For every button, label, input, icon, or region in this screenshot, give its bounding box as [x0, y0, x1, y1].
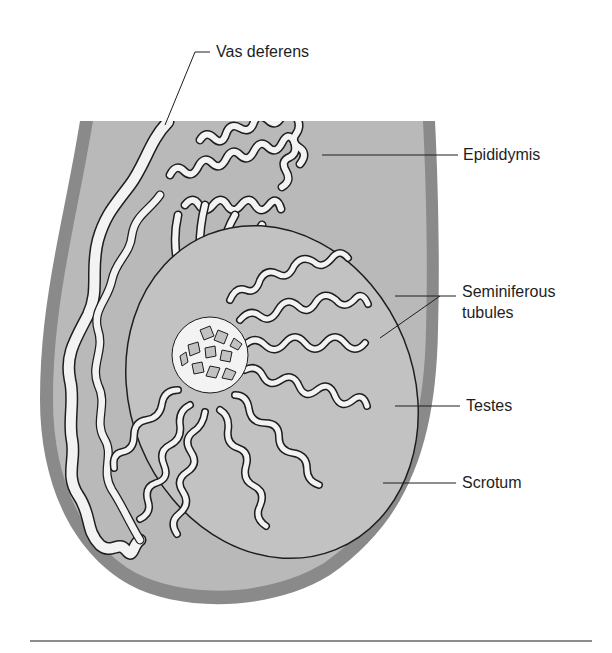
label-testes: Testes [466, 396, 512, 416]
bottom-divider [30, 640, 592, 642]
label-seminiferous-line1: Seminiferous [462, 282, 555, 302]
rete-testis [172, 317, 248, 393]
testis-diagram [0, 0, 612, 653]
label-scrotum: Scrotum [462, 473, 522, 493]
label-epididymis: Epididymis [463, 145, 540, 165]
label-seminiferous-line2: tubules [462, 303, 514, 323]
label-vas-deferens: Vas deferens [216, 42, 309, 62]
leader-vas-deferens [165, 52, 210, 125]
